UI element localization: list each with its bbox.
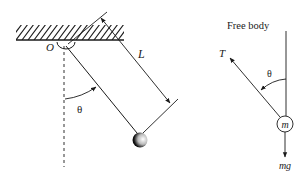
- pendulum-bob: [133, 133, 148, 148]
- free-body-diagram: Free body T θ m mg: [219, 20, 293, 171]
- pendulum-diagram: O L θ Free body T θ m mg: [0, 0, 306, 178]
- pivot-label: O: [46, 41, 54, 53]
- length-dimension: L: [68, 12, 178, 133]
- tension-arrow: [230, 58, 280, 117]
- length-dimension-arrow: [101, 18, 170, 103]
- pendulum-rod: [66, 46, 137, 133]
- angle-label: θ: [77, 103, 82, 115]
- lower-extension-line: [143, 99, 178, 133]
- length-label: L: [137, 47, 145, 61]
- free-body-title: Free body: [227, 20, 270, 31]
- tension-label: T: [219, 47, 226, 59]
- angle-arc-fbd: [261, 79, 286, 90]
- pivot-hinge-icon: [57, 42, 75, 49]
- weight-label: mg: [279, 160, 291, 171]
- angle-label-fbd: θ: [267, 68, 272, 79]
- angle-arc: [65, 87, 96, 99]
- mass-label: m: [281, 119, 288, 130]
